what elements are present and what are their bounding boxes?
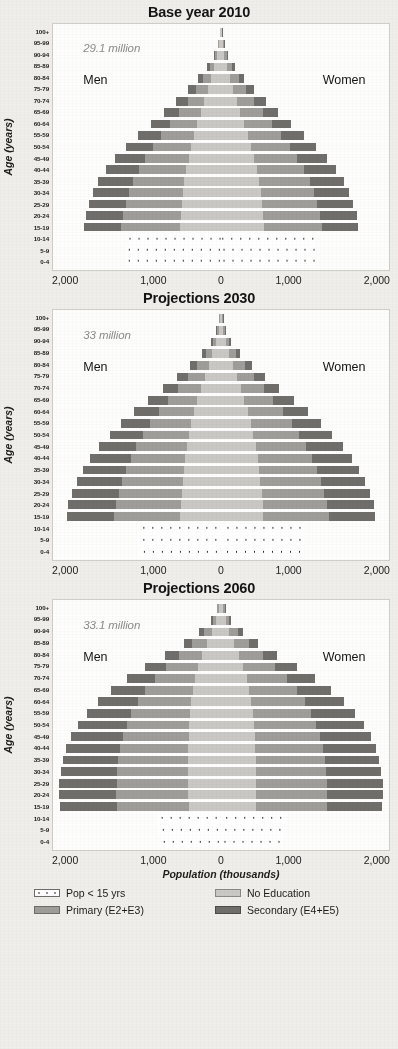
pyramid-row	[53, 61, 389, 72]
y-axis-tick: 65-69	[16, 684, 52, 696]
y-axis-tick: 20-24	[16, 790, 52, 802]
y-axis-tick: 10-14	[16, 523, 52, 535]
bar-segment	[297, 154, 326, 163]
bar-segment	[117, 779, 189, 788]
pyramid-bar-men	[89, 200, 223, 209]
pyramid-bar-men	[134, 407, 220, 416]
pyramid-row	[53, 313, 389, 325]
pyramid-bar-men	[111, 686, 221, 695]
y-axis-tick: 45-49	[16, 153, 52, 165]
bar-segment	[220, 85, 233, 94]
bar-segment	[93, 188, 129, 197]
bar-segment	[222, 165, 257, 174]
bar-segment	[234, 639, 249, 648]
legend-label: Pop < 15 yrs	[66, 887, 125, 899]
pyramid-row	[53, 731, 389, 743]
bar-segment	[221, 686, 249, 695]
pyramid-bar-men	[207, 63, 221, 72]
under15-block-women	[222, 812, 285, 824]
bar-segment	[138, 131, 160, 140]
pyramid-row	[53, 38, 389, 49]
pyramid-bar-men	[198, 74, 221, 83]
bar-segment	[221, 419, 251, 428]
pyramid-row	[53, 198, 389, 209]
bar-segment	[72, 489, 118, 498]
pyramid-bar-women	[220, 396, 293, 405]
y-axis-tick: 35-39	[16, 464, 52, 476]
pyramid-bar-women	[221, 604, 226, 613]
bar-segment	[151, 120, 170, 129]
bar-segment	[262, 200, 317, 209]
bar-segment	[243, 663, 275, 672]
pyramid-bar-men	[106, 165, 222, 174]
pyramid-bar-women	[220, 407, 307, 416]
pyramid-bar-women	[221, 51, 229, 60]
under15-block-women	[222, 255, 316, 266]
bar-segment	[191, 143, 221, 152]
bar-segment	[324, 489, 369, 498]
bar-segment	[129, 188, 183, 197]
bar-segment	[254, 373, 265, 382]
y-axis-title: Age (years)	[0, 309, 16, 561]
pyramid-bar-men	[121, 419, 220, 428]
bar-segment	[180, 512, 222, 521]
bar-segment	[193, 686, 221, 695]
y-axis-tick: 70-74	[16, 672, 52, 684]
pyramid-bar-men	[126, 143, 221, 152]
pyramid-bar-women	[222, 721, 364, 730]
pyramid-row	[53, 453, 389, 465]
pyramid-bar-women	[221, 28, 222, 37]
x-axis-tick: 0	[187, 854, 255, 866]
bar-segment	[110, 431, 143, 440]
pyramid-bar-women	[222, 200, 353, 209]
y-axis-ticks: 100+95-9990-9485-8980-8475-7970-7465-696…	[16, 309, 52, 561]
pyramid-bar-women	[220, 97, 265, 106]
pyramid-bar-women	[221, 338, 232, 347]
bar-segment	[220, 663, 243, 672]
bar-segment	[244, 120, 272, 129]
pyramid-row	[53, 221, 389, 232]
pyramid-bar-women	[220, 349, 240, 358]
bar-segment	[317, 466, 359, 475]
x-axis-tick: 0	[187, 274, 255, 286]
bar-segment	[220, 384, 240, 393]
pyramid-bar-men	[165, 651, 221, 660]
pyramid-row	[53, 499, 389, 511]
pyramid-bar-men	[59, 779, 222, 788]
bar-segment	[201, 384, 221, 393]
bar-segment	[145, 663, 166, 672]
pyramid-bar-women	[221, 674, 315, 683]
bar-segment	[287, 674, 315, 683]
bar-segment	[126, 466, 184, 475]
bar-segment	[138, 697, 192, 706]
pyramid-row	[53, 812, 389, 824]
bar-segment	[245, 361, 252, 370]
pyramid-row	[53, 534, 389, 546]
bar-segment	[299, 431, 332, 440]
pyramid-bar-women	[221, 40, 224, 49]
pyramid-bar-women	[220, 74, 244, 83]
bar-segment	[212, 349, 220, 358]
legend-label: No Education	[247, 887, 310, 899]
bar-segment	[314, 188, 350, 197]
bar-segment	[194, 131, 221, 140]
bar-segment	[320, 732, 371, 741]
bar-segment	[222, 790, 256, 799]
bar-segment	[327, 500, 373, 509]
y-axis-tick: 95-99	[16, 38, 52, 50]
bar-segment	[320, 211, 357, 220]
pyramid-row	[53, 789, 389, 801]
pyramid-bar-women	[220, 663, 296, 672]
pyramid-row	[53, 73, 389, 84]
pyramid-row	[53, 348, 389, 360]
row-separator	[53, 847, 389, 848]
y-axis-tick: 40-44	[16, 453, 52, 465]
pyramid-row	[53, 743, 389, 755]
y-axis-title: Age (years)	[0, 23, 16, 271]
bar-segment	[327, 790, 383, 799]
pyramid-row	[53, 118, 389, 129]
bar-segment	[202, 651, 220, 660]
bar-segment	[89, 200, 126, 209]
bar-segment	[145, 686, 192, 695]
bar-segment	[60, 802, 117, 811]
